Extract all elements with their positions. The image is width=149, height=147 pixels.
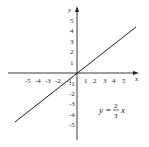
svg-text:2: 2 [114,102,118,110]
svg-text:-4: -4 [69,111,75,119]
svg-text:-5: -5 [25,77,31,85]
svg-text:3: 3 [70,38,74,46]
svg-text:1: 1 [84,77,88,85]
svg-text:x: x [120,105,125,115]
svg-text:-5: -5 [69,121,75,129]
svg-text:5: 5 [122,77,126,85]
svg-text:-4: -4 [35,77,41,85]
equation-annotation: y = 2 3 x [98,102,125,120]
svg-text:-3: -3 [45,77,51,85]
svg-text:5: 5 [70,17,74,25]
svg-text:3: 3 [114,112,118,120]
svg-text:2: 2 [70,48,74,56]
svg-text:-1: -1 [69,80,75,88]
coordinate-plane: x y -5 -4 -3 -2 -1 1 2 3 4 5 5 4 3 2 1 -… [0,0,149,147]
svg-text:-3: -3 [69,100,75,108]
x-tick-labels: -5 -4 -3 -2 -1 1 2 3 4 5 [25,77,126,85]
svg-text:2: 2 [93,77,97,85]
y-axis-arrow-icon [75,6,79,12]
svg-text:-2: -2 [55,77,61,85]
svg-text:3: 3 [103,77,107,85]
svg-text:y =: y = [98,105,111,115]
y-axis-label: y [67,6,72,14]
svg-text:-2: -2 [69,90,75,98]
svg-text:4: 4 [112,77,116,85]
x-axis-label: x [134,75,139,83]
svg-text:1: 1 [70,59,74,67]
svg-text:4: 4 [70,27,74,35]
series-line-y-equals-two-thirds-x [15,27,136,122]
